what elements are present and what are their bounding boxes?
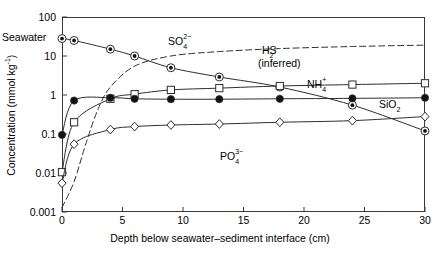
series-label-NH4: NH+4 [307, 79, 328, 90]
series-label-note-H2S (inferred): (inferred) [258, 58, 301, 69]
x-axis-title: Depth below seawater–sediment interface … [0, 233, 440, 244]
x-tick-20: 20 [298, 215, 310, 226]
series-label-text: PO [220, 150, 235, 162]
x-tick-25: 25 [359, 215, 371, 226]
series-label-SO4: SO2−4 [168, 36, 189, 47]
series-label-text: H [262, 44, 270, 56]
series-NH4 [58, 80, 428, 176]
series-label-text: NH [307, 78, 322, 90]
series-label-H2S (inferred): H2S [262, 45, 277, 56]
x-axis-tick-labels: 051015202530 [0, 215, 440, 231]
series-label-text: SO [168, 35, 183, 47]
x-tick-15: 15 [238, 215, 250, 226]
series-label-PO4: PO3−4 [220, 151, 241, 162]
series-H2S (inferred) [62, 45, 425, 207]
series-label-SiO2: SiO2 [379, 99, 403, 110]
series-label-text: SiO [379, 98, 397, 110]
x-tick-0: 0 [59, 215, 65, 226]
figure-container: 0.0010.010.1110100 Concentration (mmol k… [0, 0, 440, 259]
x-tick-30: 30 [419, 215, 431, 226]
x-tick-10: 10 [177, 215, 189, 226]
series-PO4 [58, 112, 429, 187]
x-tick-5: 5 [120, 215, 126, 226]
